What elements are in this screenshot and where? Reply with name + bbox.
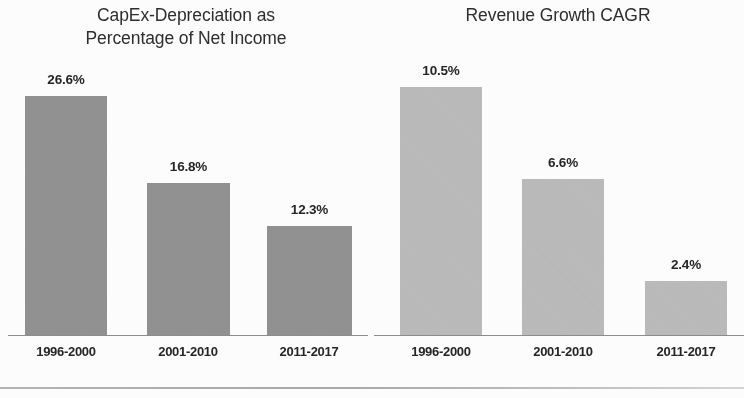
bar-value-cagr-2011-2017: 2.4% <box>645 257 727 272</box>
bar-capex-2011-2017 <box>267 226 352 335</box>
x-axis-label-capex-2011-2017: 2011-2017 <box>259 344 359 359</box>
bar-value-cagr-2001-2010: 6.6% <box>522 155 604 170</box>
bar-capex-1996-2000 <box>25 96 107 335</box>
chart-revenue-growth-cagr: Revenue Growth CAGR 10.5% 6.6% 2.4% 1996… <box>372 0 744 398</box>
bar-cagr-2011-2017 <box>645 281 727 335</box>
bar-value-cagr-1996-2000: 10.5% <box>400 63 482 78</box>
plot-area-capex-depreciation: 26.6% 16.8% 12.3% 1996-2000 2001-2010 20… <box>0 0 372 398</box>
bar-cagr-2001-2010 <box>522 179 604 335</box>
x-axis-label-cagr-2001-2010: 2001-2010 <box>513 344 613 359</box>
chart-capex-depreciation: CapEx-Depreciation as Percentage of Net … <box>0 0 372 398</box>
bar-capex-2001-2010 <box>147 183 230 335</box>
page-bottom-divider <box>0 387 744 389</box>
x-axis-label-capex-1996-2000: 1996-2000 <box>16 344 116 359</box>
figure-canvas: CapEx-Depreciation as Percentage of Net … <box>0 0 744 398</box>
x-axis-label-cagr-2011-2017: 2011-2017 <box>636 344 736 359</box>
bar-value-capex-2011-2017: 12.3% <box>267 202 352 217</box>
x-axis-line-capex <box>8 335 368 336</box>
bar-cagr-1996-2000 <box>400 87 482 335</box>
x-axis-label-cagr-1996-2000: 1996-2000 <box>391 344 491 359</box>
x-axis-label-capex-2001-2010: 2001-2010 <box>138 344 238 359</box>
plot-area-revenue-growth-cagr: 10.5% 6.6% 2.4% 1996-2000 2001-2010 2011… <box>372 0 744 398</box>
bar-value-capex-2001-2010: 16.8% <box>147 159 230 174</box>
x-axis-line-cagr <box>374 335 744 336</box>
bar-value-capex-1996-2000: 26.6% <box>25 72 107 87</box>
